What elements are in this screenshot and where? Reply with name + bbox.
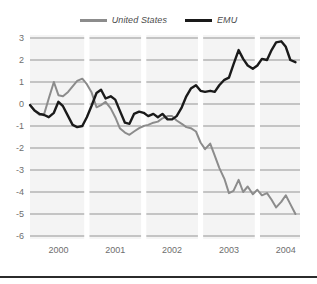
y-axis-tick-labels: 3210-1-2-3-4-5-6: [16, 33, 24, 241]
y-tick-label: -4: [16, 187, 24, 197]
plot-area-wrapper: 3210-1-2-3-4-5-6 20002001200220032004: [0, 28, 317, 260]
bottom-margin: [0, 278, 317, 284]
y-tick-label: -5: [16, 209, 24, 219]
x-tick-label: 2004: [276, 245, 296, 255]
legend-swatch-emu: [185, 19, 212, 22]
chart-figure: United States EMU 3210-1-2-3-4-5-6 20002…: [0, 0, 317, 284]
legend-item-united-states: United States: [80, 15, 167, 26]
legend-swatch-united-states: [80, 19, 107, 22]
y-tick-label: -1: [16, 121, 24, 131]
y-tick-label: -6: [16, 231, 24, 241]
y-tick-label: 2: [19, 55, 24, 65]
x-tick-label: 2002: [162, 245, 182, 255]
y-tick-label: -3: [16, 165, 24, 175]
y-tick-label: 1: [19, 77, 24, 87]
y-tick-label: -2: [16, 143, 24, 153]
x-tick-label: 2000: [48, 245, 68, 255]
x-axis-tick-labels: 20002001200220032004: [48, 245, 295, 255]
legend-item-emu: EMU: [185, 15, 237, 26]
y-tick-label: 0: [19, 99, 24, 109]
x-tick-label: 2001: [105, 245, 125, 255]
x-tick-label: 2003: [219, 245, 239, 255]
y-tick-label: 3: [19, 33, 24, 43]
legend-label-united-states: United States: [112, 15, 167, 26]
line-chart: 3210-1-2-3-4-5-6 20002001200220032004: [0, 28, 317, 260]
legend-label-emu: EMU: [217, 15, 237, 26]
chart-legend: United States EMU: [0, 12, 317, 28]
